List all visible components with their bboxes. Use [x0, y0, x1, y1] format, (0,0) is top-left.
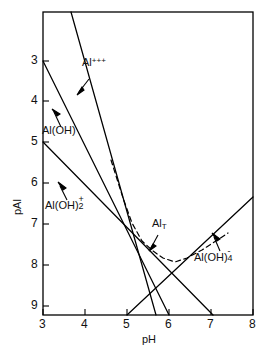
arrow-altotal [149, 235, 158, 251]
series-label-aloh2plus-text: Al(OH) [45, 199, 79, 211]
y-axis-ticks [43, 61, 49, 306]
y-tick-label-4: 4 [31, 94, 38, 106]
arrow-aloh4minus [212, 233, 220, 251]
axis-frame [43, 12, 253, 315]
x-axis-title: pH [142, 334, 156, 345]
series-label-al-total-text: Al [152, 217, 162, 229]
y-tick-label-5: 5 [31, 135, 38, 147]
x-tick-label-6: 6 [165, 318, 172, 330]
series-label-aloh2plus-sub: 2 [79, 202, 84, 211]
series-label-aloh2plus: Al(OH)+2 [45, 198, 85, 211]
series-label-aloh4minus-charge: -4 [228, 250, 234, 261]
series-label-aloh4minus-sub: 4 [228, 254, 233, 263]
series-label-al-total: AlT [152, 218, 167, 229]
x-tick-label-5: 5 [123, 318, 130, 330]
series-line-aloh2-plus [43, 142, 213, 315]
y-tick-label-8: 8 [31, 258, 38, 270]
arrow-al3plus [77, 79, 89, 95]
annotation-arrows [52, 79, 220, 251]
x-tick-label-8: 8 [249, 318, 256, 330]
series-label-aloh: Al(OH) [42, 125, 76, 136]
series-label-aloh4minus: Al(OH)-4 [194, 250, 234, 263]
y-tick-label-6: 6 [31, 176, 38, 188]
y-tick-label-3: 3 [31, 54, 38, 66]
x-tick-label-4: 4 [81, 318, 88, 330]
series-label-al3plus-text: Al [82, 56, 92, 68]
series-label-al-total-sub: T [162, 222, 167, 231]
x-tick-label-7: 7 [207, 318, 214, 330]
plot-border [43, 12, 253, 315]
series-label-aloh4minus-text: Al(OH) [194, 251, 228, 263]
chart-canvas [0, 0, 271, 356]
series-label-al3plus: Al+++ [82, 57, 106, 68]
series-line-aloh4minus [127, 197, 253, 315]
series-label-al3plus-sup: +++ [92, 56, 106, 65]
x-tick-label-3: 3 [39, 318, 46, 330]
data-series [43, 12, 253, 315]
series-curve-al-total [111, 160, 228, 262]
y-tick-label-7: 7 [31, 217, 38, 229]
series-label-aloh-text: Al(OH) [42, 124, 76, 136]
x-axis-ticks [43, 309, 253, 315]
y-tick-label-9: 9 [31, 299, 38, 311]
y-axis-title: pAl [12, 199, 23, 215]
aluminium-solubility-chart: 3 4 5 6 7 8 3 4 5 6 7 8 9 pH pAl Al+++ A… [0, 0, 271, 356]
series-label-aloh2plus-charge: +2 [79, 198, 85, 209]
